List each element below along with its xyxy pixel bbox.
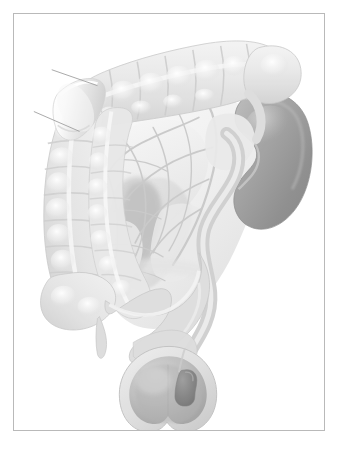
tone-veil xyxy=(14,14,324,430)
anatomical-illustration xyxy=(14,14,324,430)
figure-frame: No visible text, captions, legend or ann… xyxy=(13,13,325,431)
figure-page: No visible text, captions, legend or ann… xyxy=(0,0,339,449)
